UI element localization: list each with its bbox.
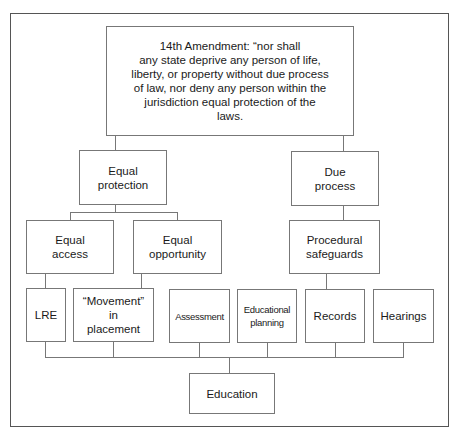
equal-protection-box: Equal protection [79,150,167,205]
assessment-box: Assessment [169,289,230,343]
connector [177,212,178,220]
records-box: Records [305,289,365,343]
connector [326,274,327,289]
connector [70,212,71,220]
education-box: Education [189,373,275,414]
connector [70,212,178,213]
connector [115,136,116,150]
connector [199,343,200,357]
connector [45,357,404,358]
procedural-safeguards-box: Procedural safeguards [289,220,380,274]
equal-access-box: Equal access [26,220,114,274]
educational-planning-box: Educational planning [237,289,297,343]
connector [113,342,114,357]
connector [141,274,142,289]
hearings-box: Hearings [373,289,434,343]
movement-in-placement-box: “Movement” in placement [73,288,154,342]
due-process-box: Due process [291,151,379,206]
connector [229,357,230,373]
connector [343,206,344,220]
connector [45,274,46,289]
fourteenth-amendment-box: 14th Amendment: “nor shall any state dep… [106,26,354,136]
connector [403,343,404,357]
equal-opportunity-box: Equal opportunity [133,220,222,274]
connector [45,342,46,357]
connector [335,343,336,357]
connector [267,343,268,357]
lre-box: LRE [26,288,66,342]
connector [343,136,344,151]
